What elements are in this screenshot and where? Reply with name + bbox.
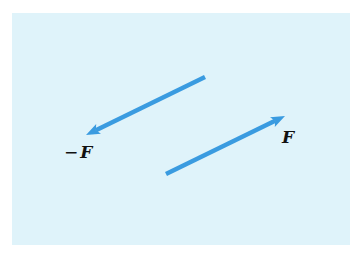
force-label: F [281, 127, 296, 147]
force-symbol: F [281, 127, 296, 147]
diagram-canvas: −F F [0, 0, 358, 261]
minus-sign: − [64, 142, 78, 162]
vector-diagram: −F F [0, 0, 358, 261]
force-symbol: F [79, 142, 94, 162]
background-panel [12, 13, 350, 245]
